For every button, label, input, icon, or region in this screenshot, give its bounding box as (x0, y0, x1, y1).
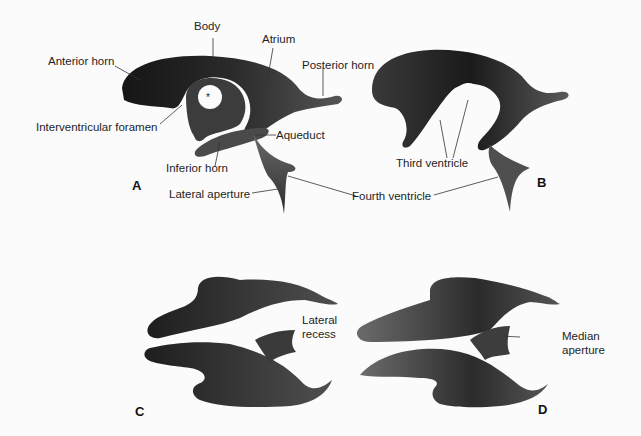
label-median-aperture-1: Median (562, 330, 600, 343)
panel-letter-c: C (135, 404, 144, 419)
label-lateral-recess-2: recess (302, 328, 336, 341)
label-aqueduct: Aqueduct (276, 129, 325, 142)
label-lateral-recess-1: Lateral (302, 314, 337, 327)
label-body: Body (194, 20, 220, 33)
panel-d-cast (357, 277, 560, 407)
label-atrium: Atrium (262, 33, 295, 46)
ventricles-figure: Body Atrium Anterior horn Posterior horn… (0, 0, 641, 436)
panel-letter-d: D (538, 402, 547, 417)
label-lateral-aperture: Lateral aperture (169, 188, 250, 201)
label-interventricular-foramen: Interventricular foramen (36, 121, 157, 134)
label-anterior-horn: Anterior horn (48, 55, 114, 68)
label-fourth-ventricle: Fourth ventricle (352, 190, 431, 203)
panel-letter-b: B (537, 175, 546, 190)
label-asterisk: * (206, 91, 210, 104)
label-posterior-horn: Posterior horn (302, 59, 374, 72)
label-third-ventricle: Third ventricle (396, 157, 468, 170)
label-inferior-horn: Inferior horn (166, 162, 228, 175)
panel-letter-a: A (132, 178, 141, 193)
panel-c-cast (144, 277, 338, 407)
label-median-aperture-2: aperture (562, 344, 605, 357)
